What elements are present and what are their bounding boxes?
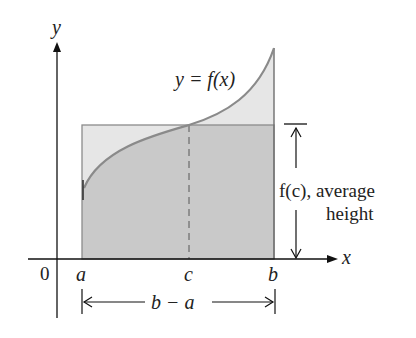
mean-value-diagram: y x 0 a c b y = f(x) f(c), average heigh… [0,0,416,338]
c-label: c [184,263,193,285]
fc-label: f(c), average [279,180,375,202]
y-axis-arrow-icon [53,42,61,52]
origin-label: 0 [40,263,50,284]
width-label: b − a [151,291,195,313]
curve-label: y = f(x) [173,68,235,91]
height-label: height [326,203,374,224]
b-label: b [268,263,278,285]
x-axis-label: x [341,246,351,268]
y-axis-label: y [50,16,61,39]
x-axis-arrow-icon [327,255,338,263]
a-label: a [76,263,86,285]
